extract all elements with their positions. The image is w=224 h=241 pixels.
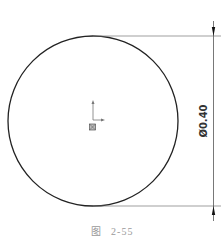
sketch-circle[interactable] bbox=[8, 36, 178, 206]
sketch-origin-icon bbox=[90, 100, 106, 130]
caption-number: 2-55 bbox=[111, 226, 133, 237]
caption-prefix: 图 bbox=[91, 226, 102, 237]
sketch-drawing bbox=[0, 0, 224, 241]
diameter-dimension-label[interactable]: Ø0.40 bbox=[198, 104, 209, 137]
figure-caption: 图 2-55 bbox=[0, 223, 224, 238]
